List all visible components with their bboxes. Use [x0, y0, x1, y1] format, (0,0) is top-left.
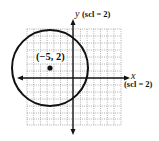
x-axis-left-arrow-icon — [17, 76, 23, 81]
center-point-label: (−5, 2) — [35, 52, 66, 63]
x-axis-scale-label: (scl = 2) — [124, 80, 152, 89]
center-point — [47, 65, 52, 70]
grid — [27, 29, 121, 125]
y-axis-down-arrow-icon — [71, 129, 76, 135]
coordinate-graph: y (scl = 2) x (scl = 2) (−5, 2) — [0, 0, 159, 141]
y-axis-label: y — [75, 9, 79, 19]
y-axis-scale-label: (scl = 2) — [82, 10, 110, 19]
y-axis-up-arrow-icon — [71, 19, 76, 25]
